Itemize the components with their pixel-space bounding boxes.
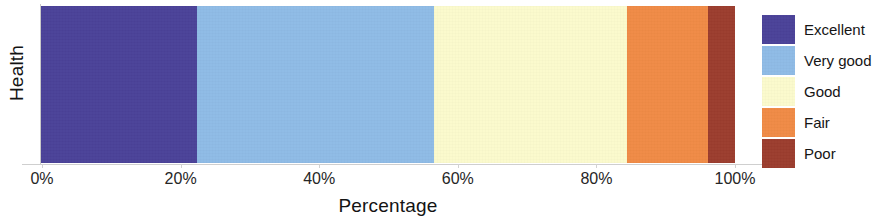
texture-overlay (41, 6, 197, 163)
texture-overlay (434, 6, 627, 163)
x-tick-label: 100% (715, 170, 756, 188)
texture-overlay (627, 6, 708, 163)
x-tick-mark (596, 164, 597, 168)
x-tick-mark (42, 164, 43, 168)
legend-swatch-icon (762, 46, 795, 75)
texture-overlay (762, 108, 795, 137)
texture-overlay (762, 46, 795, 75)
x-axis-title: Percentage (0, 195, 776, 217)
x-tick-label: 40% (303, 170, 335, 188)
plot-area (41, 6, 735, 163)
legend-swatch-icon (762, 108, 795, 137)
legend-item[interactable]: Excellent (762, 14, 874, 44)
x-tick-mark (181, 164, 182, 168)
legend: ExcellentVery goodGoodFairPoor (762, 14, 874, 169)
legend-swatch-icon (762, 139, 795, 168)
x-tick-label: 80% (580, 170, 612, 188)
stacked-bar-chart: Health 0%20%40%60%80%100% Percentage Exc… (0, 0, 874, 222)
bar-segment-fair (627, 6, 708, 163)
texture-overlay (708, 6, 735, 163)
x-tick-label: 60% (442, 170, 474, 188)
texture-overlay (762, 77, 795, 106)
legend-item[interactable]: Very good (762, 45, 874, 75)
texture-overlay (197, 6, 434, 163)
legend-item[interactable]: Fair (762, 107, 874, 137)
texture-overlay (762, 139, 795, 168)
legend-item-label: Poor (804, 145, 836, 162)
bar-segment-poor (708, 6, 735, 163)
bar-health (41, 6, 735, 163)
x-tick-mark (319, 164, 320, 168)
legend-item-label: Very good (804, 52, 872, 69)
legend-item[interactable]: Poor (762, 138, 874, 168)
legend-item-label: Good (804, 83, 841, 100)
x-axis-line (22, 164, 762, 165)
bar-segment-very-good (197, 6, 434, 163)
legend-item-label: Excellent (804, 21, 865, 38)
x-tick-mark (458, 164, 459, 168)
legend-item[interactable]: Good (762, 76, 874, 106)
y-axis-title: Health (6, 23, 28, 123)
x-tick-label: 0% (30, 170, 53, 188)
x-tick-label: 20% (165, 170, 197, 188)
texture-overlay (762, 15, 795, 44)
x-tick-mark (735, 164, 736, 168)
legend-swatch-icon (762, 15, 795, 44)
legend-swatch-icon (762, 77, 795, 106)
bar-segment-good (434, 6, 627, 163)
legend-item-label: Fair (804, 114, 830, 131)
bar-segment-excellent (41, 6, 197, 163)
